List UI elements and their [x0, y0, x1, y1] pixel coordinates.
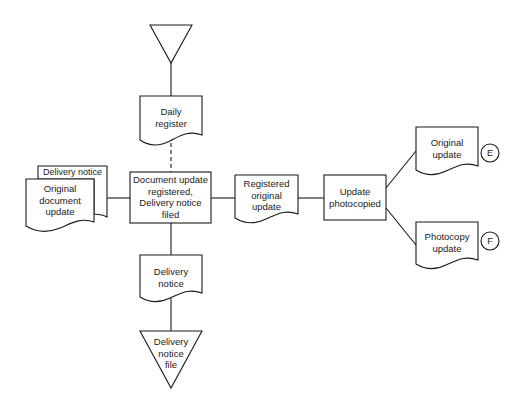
delivery-notice-back-label: Delivery notice: [38, 167, 107, 179]
daily-register-label: Daily register: [140, 106, 202, 129]
connector-f-label: F: [481, 232, 499, 250]
original-document-update-label: Original document update: [26, 183, 94, 218]
update-photocopied-label: Update photocopied: [324, 186, 386, 209]
photocopy-update-label: Photocopy update: [416, 231, 478, 254]
main-process-label: Document update registered, Delivery not…: [130, 174, 211, 220]
connector-e-label: E: [481, 144, 499, 162]
edge-photocopied-photocopy: [386, 208, 416, 245]
registered-original-update-label: Registered original update: [235, 178, 298, 213]
edge-photocopied-original: [386, 151, 416, 188]
original-update-label: Original update: [416, 137, 478, 160]
delivery-notice-label: Delivery notice: [140, 266, 202, 289]
delivery-notice-file-label: Delivery notice file: [140, 336, 202, 371]
file-symbol-top: [150, 25, 192, 63]
